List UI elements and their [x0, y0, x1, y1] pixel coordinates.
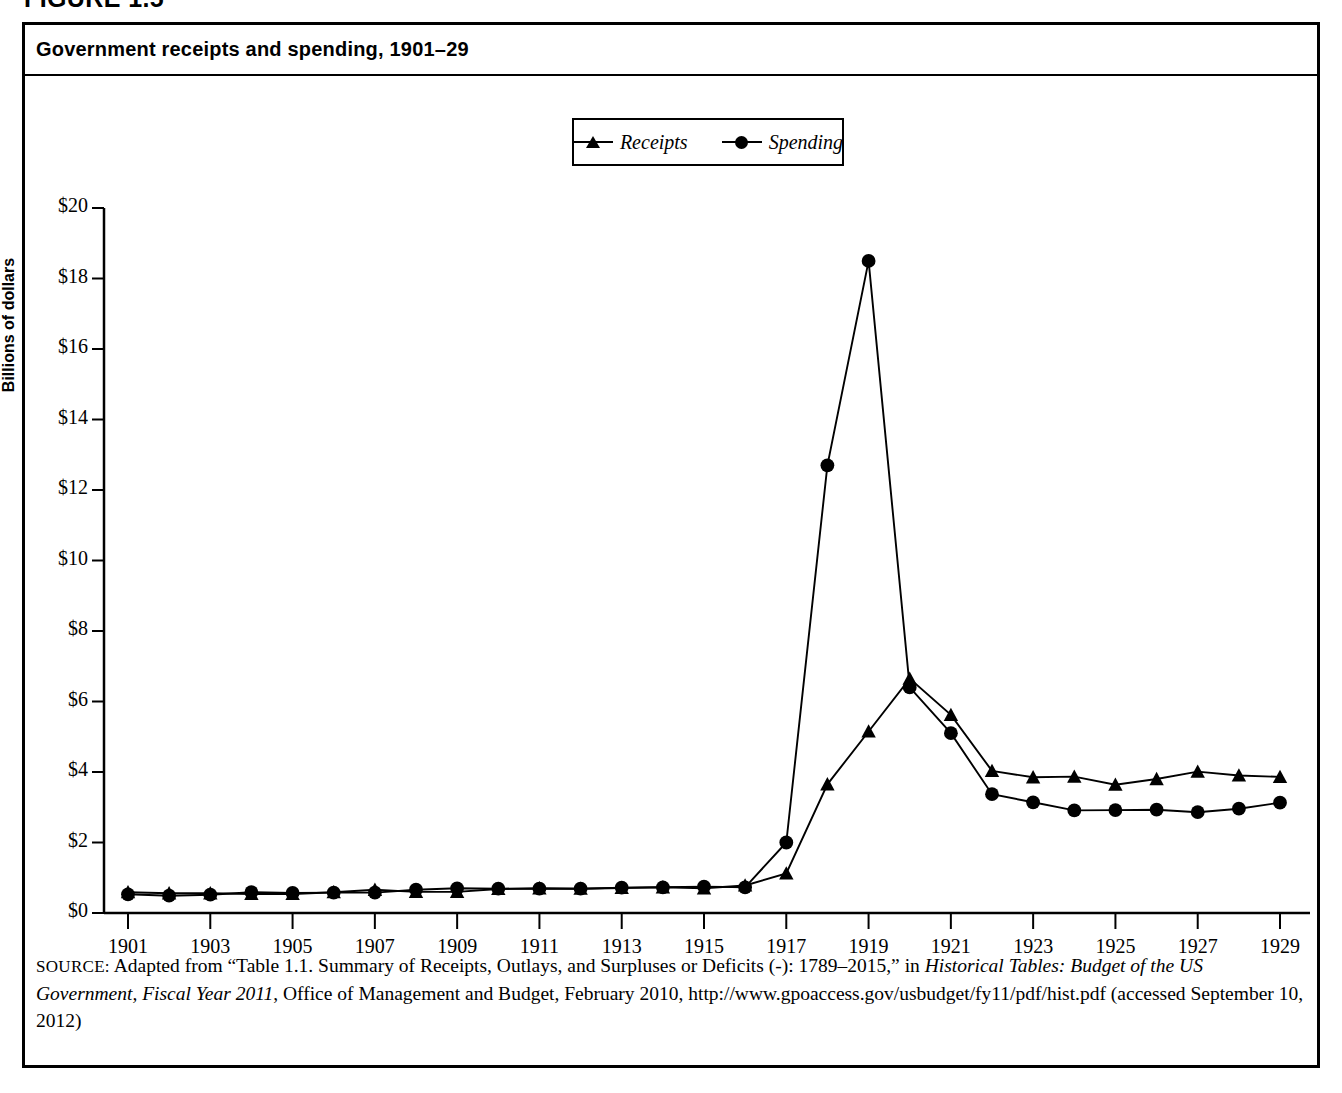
chart-svg	[0, 0, 1342, 1093]
datapoint-circle-marker	[903, 681, 917, 695]
y-axis-ticklabel: $2	[26, 829, 88, 852]
datapoint-circle-marker	[779, 836, 793, 850]
datapoint-circle-marker	[121, 887, 135, 901]
chart-series	[121, 254, 1287, 903]
datapoint-circle-marker	[533, 882, 547, 896]
figure-page: FIGURE 1.5 Government receipts and spend…	[0, 0, 1342, 1093]
datapoint-circle-marker	[203, 888, 217, 902]
series-line-receipts	[128, 679, 1280, 894]
datapoint-triangle-marker	[1191, 764, 1205, 777]
datapoint-circle-marker	[821, 458, 835, 472]
datapoint-circle-marker	[1232, 802, 1246, 816]
y-axis-ticklabel: $16	[26, 335, 88, 358]
datapoint-circle-marker	[1273, 796, 1287, 810]
source-prefix: SOURCE:	[36, 957, 110, 976]
datapoint-circle-marker	[245, 885, 259, 899]
datapoint-circle-marker	[944, 726, 958, 740]
y-axis-ticklabel: $6	[26, 688, 88, 711]
datapoint-circle-marker	[862, 254, 876, 268]
y-axis-ticklabel: $8	[26, 617, 88, 640]
datapoint-circle-marker	[368, 886, 382, 900]
datapoint-triangle-marker	[985, 764, 999, 777]
y-axis-ticklabel: $14	[26, 406, 88, 429]
y-axis-ticklabel: $20	[26, 194, 88, 217]
chart-axes	[92, 208, 1310, 929]
datapoint-circle-marker	[409, 883, 423, 897]
datapoint-circle-marker	[615, 881, 629, 895]
datapoint-circle-marker	[1150, 803, 1164, 817]
datapoint-triangle-marker	[779, 866, 793, 879]
y-axis-label: Billions of dollars	[0, 195, 18, 455]
datapoint-circle-marker	[327, 886, 341, 900]
datapoint-circle-marker	[162, 889, 176, 903]
datapoint-circle-marker	[574, 882, 588, 896]
datapoint-circle-marker	[450, 881, 464, 895]
datapoint-circle-marker	[697, 880, 711, 894]
datapoint-circle-marker	[738, 880, 752, 894]
source-note: SOURCE: Adapted from “Table 1.1. Summary…	[36, 952, 1308, 1034]
datapoint-circle-marker	[1067, 804, 1081, 818]
y-axis-ticklabel: $18	[26, 265, 88, 288]
datapoint-circle-marker	[985, 787, 999, 801]
datapoint-circle-marker	[286, 886, 300, 900]
datapoint-circle-marker	[656, 880, 670, 894]
y-axis-ticklabel: $10	[26, 547, 88, 570]
y-axis-ticklabel: $12	[26, 476, 88, 499]
y-axis-ticklabel: $4	[26, 758, 88, 781]
datapoint-circle-marker	[1109, 803, 1123, 817]
datapoint-circle-marker	[1026, 795, 1040, 809]
source-text-1: Adapted from “Table 1.1. Summary of Rece…	[110, 955, 925, 976]
y-axis-ticklabel: $0	[26, 899, 88, 922]
plot-area: Billions of dollars $0$2$4$6$8$10$12$14$…	[0, 0, 1342, 1093]
series-line-spending	[128, 261, 1280, 896]
datapoint-circle-marker	[491, 882, 505, 896]
datapoint-circle-marker	[1191, 805, 1205, 819]
